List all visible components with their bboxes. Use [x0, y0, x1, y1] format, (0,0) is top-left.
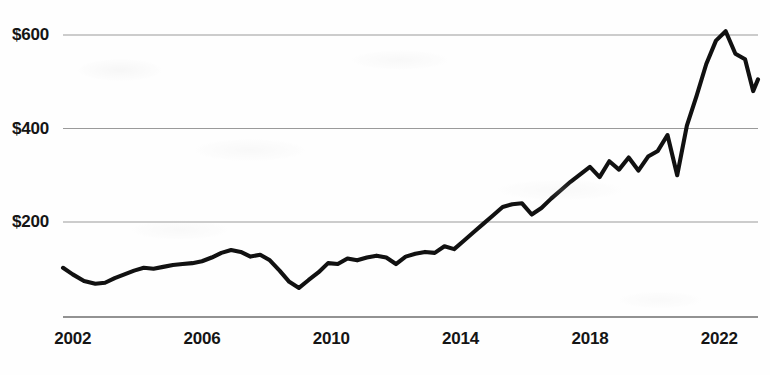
x-tick-label-2022: 2022 [701, 329, 738, 349]
y-tick-label-600: $600 [0, 25, 49, 45]
y-tick-label-400: $400 [0, 119, 49, 139]
x-tick-label-2006: 2006 [183, 329, 220, 349]
x-tick-label-2018: 2018 [571, 329, 608, 349]
chart-plot-area [0, 0, 770, 375]
x-tick-label-2002: 2002 [54, 329, 91, 349]
x-tick-label-2014: 2014 [442, 329, 479, 349]
line-chart: $200$400$600 200220062010201420182022 [0, 0, 770, 375]
series-line-0 [63, 31, 758, 288]
y-tick-label-200: $200 [0, 212, 49, 232]
x-tick-label-2010: 2010 [313, 329, 350, 349]
